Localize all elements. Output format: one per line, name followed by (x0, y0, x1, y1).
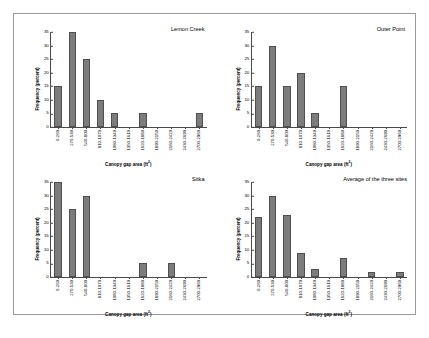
x-axis-tick-label: 810-1079 (98, 130, 102, 148)
bar (83, 196, 90, 277)
bar-slot (308, 182, 322, 277)
panel-grid: Frequency (percent) Lemon Creek 35302520… (14, 14, 415, 314)
chart-panel-lemon-creek: Frequency (percent) Lemon Creek 35302520… (14, 14, 215, 164)
x-axis-tick-label: 1350-1619 (327, 280, 331, 301)
x-axis-title: Canopy gap area (ft2) (251, 310, 408, 317)
y-axis-tick-label: 15 (44, 84, 51, 88)
x-axis-tick-label: 1620-1889 (141, 280, 145, 301)
x-axis-tick-label: 540-809 (84, 280, 88, 296)
x-axis-tick-label: 1620-1889 (141, 130, 145, 151)
bar-slot (192, 182, 206, 277)
x-axis-tick-label: 2700-2969 (197, 130, 201, 151)
x-axis-tick-label: 1080-1349 (112, 130, 116, 151)
bar-slot (65, 182, 79, 277)
bar (283, 86, 290, 127)
bar-slot (365, 182, 379, 277)
x-axis-tick-label: 1350-1619 (127, 280, 131, 301)
y-axis-tick-label: 20 (244, 71, 251, 75)
bar-slot (108, 182, 122, 277)
x-axis-title-close: ) (150, 312, 152, 317)
bar (139, 113, 146, 127)
plot-wrap: Outer Point 353025201510500-269270-53954… (237, 23, 410, 164)
x-axis-tick-label: 540-809 (285, 130, 289, 146)
x-axis-tick-label: 0-269 (256, 130, 260, 141)
y-axis-tick-label: 10 (44, 98, 51, 102)
bar (54, 182, 61, 277)
bar (340, 258, 347, 277)
y-axis-tick-label: 30 (244, 193, 251, 197)
bar-slot (350, 182, 364, 277)
x-axis-tick-label: 0-269 (56, 280, 60, 291)
y-axis-tick-label: 20 (44, 71, 51, 75)
chart-panel-average-three-sites: Frequency (percent) Average of the three… (215, 164, 416, 314)
bar-slot (379, 182, 393, 277)
bar-slot (336, 182, 350, 277)
bar (255, 217, 262, 277)
y-axis-tick-label: 15 (44, 234, 51, 238)
x-axis-tick-label: 2160-2429 (169, 130, 173, 151)
bar-slot (294, 32, 308, 127)
x-axis-tick-label: 1080-1349 (112, 280, 116, 301)
y-axis-tick-label: 10 (244, 98, 251, 102)
bar-slot (393, 182, 407, 277)
x-axis-tick-label: 540-809 (84, 130, 88, 146)
y-axis-tick-label: 15 (244, 234, 251, 238)
chart-panel-sitka: Frequency (percent) Sitka 35302520151050… (14, 164, 215, 314)
bar (111, 113, 118, 127)
bar (255, 86, 262, 127)
bar-slot (280, 32, 294, 127)
y-axis-tick-label: 20 (44, 221, 51, 225)
x-axis-tick-label: 1890-2159 (355, 130, 359, 151)
bar-slot (51, 32, 65, 127)
x-axis-title: Canopy gap area (ft2) (50, 310, 207, 317)
bar (311, 269, 318, 277)
bar (69, 32, 76, 127)
bar-slot (122, 32, 136, 127)
bar (196, 113, 203, 127)
bar-slot (79, 182, 93, 277)
plot-wrap: Sitka 353025201510500-269270-539540-8098… (36, 173, 209, 314)
x-axis-title-text: Canopy gap area (ft (105, 312, 148, 317)
x-axis-tick-label: 1620-1889 (341, 130, 345, 151)
bar (269, 196, 276, 277)
bar-slot (322, 32, 336, 127)
y-axis-tick-label: 10 (44, 248, 51, 252)
y-axis-tick-label: 25 (244, 57, 251, 61)
x-axis-tick-label: 1890-2159 (355, 280, 359, 301)
x-axis-tick-label: 2430-2699 (384, 130, 388, 151)
bar-slot (266, 32, 280, 127)
bar-slot (164, 32, 178, 127)
chart-panel-outer-point: Frequency (percent) Outer Point 35302520… (215, 14, 416, 164)
bar-slot (178, 182, 192, 277)
bar-slot (266, 182, 280, 277)
x-axis-tick-label: 2160-2429 (169, 280, 173, 301)
bar (311, 113, 318, 127)
bar-slot (252, 182, 266, 277)
x-axis-tick-label: 270-539 (271, 130, 275, 146)
figure-frame: Frequency (percent) Lemon Creek 35302520… (13, 13, 416, 315)
bar-slot (192, 32, 206, 127)
x-axis-tick-label: 2160-2429 (370, 280, 374, 301)
y-axis-tick-label: 25 (44, 207, 51, 211)
x-axis-tick-label: 1890-2159 (155, 280, 159, 301)
x-axis-tick-label: 1350-1619 (327, 130, 331, 151)
x-axis-tick-label: 2430-2699 (183, 280, 187, 301)
y-axis-tick-label: 35 (244, 30, 251, 34)
bar (168, 263, 175, 277)
bar-slot (164, 182, 178, 277)
x-axis-tick-label: 2700-2969 (197, 280, 201, 301)
plot-wrap: Average of the three sites 3530252015105… (237, 173, 410, 314)
plot-area: 353025201510500-269270-539540-809810-107… (50, 182, 207, 278)
x-axis-tick-label: 1350-1619 (127, 130, 131, 151)
bar-slot (51, 182, 65, 277)
bar-slot (122, 182, 136, 277)
bar-slot (379, 32, 393, 127)
plot-area: 353025201510500-269270-539540-809810-107… (50, 32, 207, 128)
x-axis-title-text: Canopy gap area (ft (306, 312, 349, 317)
y-axis-tick-label: 10 (244, 248, 251, 252)
y-axis-tick-label: 35 (44, 30, 51, 34)
bar-slot (108, 32, 122, 127)
bar-slot (93, 32, 107, 127)
bar (297, 73, 304, 127)
bar-slot (280, 182, 294, 277)
